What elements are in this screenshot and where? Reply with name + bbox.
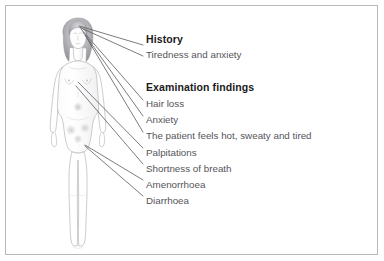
examination-item-hot-sweaty-tired: The patient feels hot, sweaty and tired: [146, 129, 376, 142]
figure-leg-left: [69, 152, 78, 246]
figure-foot-left: [73, 246, 78, 249]
figure-hand-right: [99, 133, 104, 147]
examination-item-diarrhoea: Diarrhoea: [146, 194, 376, 207]
history-item: Tiredness and anxiety: [146, 48, 376, 61]
history-block: History Tiredness and anxiety: [146, 33, 376, 61]
examination-item-palpitations: Palpitations: [146, 146, 376, 159]
examination-item-hair-loss: Hair loss: [146, 97, 376, 110]
findings-text-column: History Tiredness and anxiety Examinatio…: [146, 33, 376, 207]
figure-foot-right: [78, 246, 83, 249]
figure-panel: History Tiredness and anxiety Examinatio…: [0, 0, 384, 261]
examination-item-shortness-of-breath: Shortness of breath: [146, 162, 376, 175]
figure-neck: [73, 47, 83, 61]
history-heading: History: [146, 33, 376, 46]
examination-item-anxiety: Anxiety: [146, 113, 376, 126]
examination-block: Examination findings Hair loss Anxiety T…: [146, 81, 376, 207]
figure-leg-right: [78, 152, 87, 246]
examination-findings-list: Hair loss Anxiety The patient feels hot,…: [146, 97, 376, 207]
figure-hand-left: [51, 133, 56, 147]
examination-item-amenorrhoea: Amenorrhoea: [146, 178, 376, 191]
examination-heading: Examination findings: [146, 81, 376, 94]
patient-figure-illustration: [28, 14, 138, 254]
